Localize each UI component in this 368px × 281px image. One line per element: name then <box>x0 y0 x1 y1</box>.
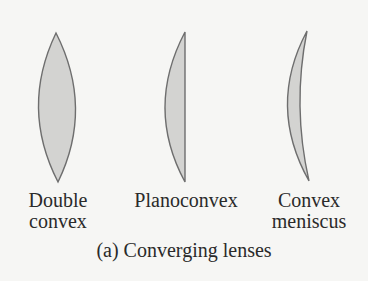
convex-meniscus-lens <box>287 31 309 181</box>
double-convex-label: Double convex <box>18 190 98 232</box>
convex-meniscus-label: Convex meniscus <box>263 190 355 232</box>
planoconvex-label-line1: Planoconvex <box>121 190 251 211</box>
figure-caption: (a) Converging lenses <box>0 239 368 262</box>
double-convex-label-line2: convex <box>18 211 98 232</box>
convex-meniscus-label-line2: meniscus <box>263 211 355 232</box>
double-convex-lens <box>38 33 75 182</box>
planoconvex-label: Planoconvex <box>121 190 251 211</box>
double-convex-label-line1: Double <box>18 190 98 211</box>
planoconvex-lens <box>165 32 185 182</box>
convex-meniscus-label-line1: Convex <box>263 190 355 211</box>
